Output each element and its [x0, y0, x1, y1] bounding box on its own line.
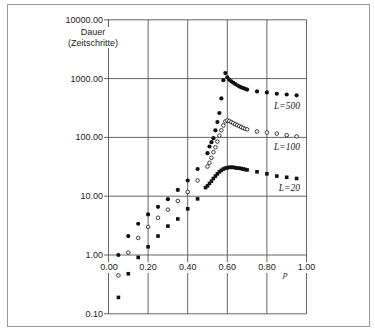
open-circle-marker: [156, 216, 160, 220]
x-tick-label: 1.00: [297, 262, 317, 273]
filled-circle-marker: [126, 234, 130, 238]
filled-circle-marker: [295, 93, 299, 97]
open-circle-marker: [218, 134, 222, 138]
series-label-l100: L=100: [274, 141, 300, 153]
y-tick-label: 10000.00: [65, 14, 103, 26]
filled-circle-marker: [116, 253, 120, 257]
filled-circle-marker: [136, 222, 140, 226]
filled-square-marker: [117, 296, 121, 300]
filled-square-marker: [245, 168, 249, 172]
y-tick-label: 1.00: [85, 249, 103, 261]
open-circle-marker: [176, 199, 180, 203]
filled-square-marker: [176, 217, 180, 221]
filled-square-marker: [295, 177, 299, 181]
filled-square-marker: [186, 207, 190, 211]
filled-square-marker: [285, 175, 289, 179]
open-circle-marker: [214, 145, 218, 149]
filled-circle-marker: [156, 205, 160, 209]
filled-square-marker: [127, 272, 131, 276]
filled-circle-marker: [215, 120, 219, 124]
x-axis-title: p: [283, 269, 288, 279]
filled-circle-marker: [207, 144, 211, 148]
filled-circle-marker: [213, 128, 217, 132]
filled-square-marker: [156, 234, 160, 238]
y-axis-title-line-2: (Zeitschritte): [67, 38, 119, 49]
x-tick-label: 0.00: [99, 262, 119, 273]
open-circle-marker: [285, 133, 289, 137]
plot-area: [0, 0, 375, 331]
filled-circle-marker: [221, 78, 225, 82]
open-circle-marker: [295, 135, 299, 139]
filled-circle-marker: [166, 197, 170, 201]
open-circle-marker: [222, 124, 226, 128]
filled-circle-marker: [223, 71, 227, 75]
x-tick-label: 0.60: [218, 262, 238, 273]
open-circle-marker: [210, 156, 214, 160]
open-circle-marker: [245, 128, 249, 132]
open-circle-marker: [220, 129, 224, 133]
filled-circle-marker: [217, 111, 221, 115]
x-tick-label: 0.20: [138, 262, 158, 273]
series-label-l20: L=20: [279, 182, 300, 194]
filled-circle-marker: [196, 167, 200, 171]
y-axis-title-line-1: Dauer: [67, 27, 119, 38]
filled-square-marker: [265, 172, 269, 176]
filled-circle-marker: [255, 89, 259, 93]
series-label-l500: L=500: [274, 100, 300, 112]
y-tick-label: 1000.00: [70, 73, 103, 85]
open-circle-marker: [136, 236, 140, 240]
y-tick-label: 0.10: [85, 308, 103, 320]
open-circle-marker: [186, 190, 190, 194]
open-circle-marker: [208, 161, 212, 165]
filled-square-marker: [275, 174, 279, 178]
open-circle-marker: [255, 130, 259, 134]
filled-square-marker: [255, 170, 259, 174]
filled-square-marker: [136, 256, 140, 260]
open-circle-marker: [127, 251, 131, 255]
filled-circle-marker: [285, 92, 289, 96]
open-circle-marker: [146, 225, 150, 229]
y-tick-label: 10.00: [80, 190, 103, 202]
filled-circle-marker: [186, 178, 190, 182]
y-tick-label: 100.00: [75, 131, 103, 143]
filled-circle-marker: [219, 96, 223, 100]
filled-circle-marker: [211, 136, 215, 140]
filled-circle-marker: [205, 151, 209, 155]
x-tick-label: 0.40: [178, 262, 198, 273]
y-axis-title: Dauer (Zeitschritte): [67, 27, 119, 48]
filled-circle-marker: [245, 88, 249, 92]
filled-square-marker: [196, 197, 200, 201]
open-circle-marker: [166, 208, 170, 212]
filled-circle-marker: [209, 140, 213, 144]
open-circle-marker: [212, 150, 216, 154]
open-circle-marker: [275, 132, 279, 136]
open-circle-marker: [196, 179, 200, 183]
filled-square-marker: [166, 224, 170, 228]
filled-circle-marker: [275, 92, 279, 96]
filled-square-marker: [146, 245, 150, 249]
open-circle-marker: [117, 274, 121, 278]
filled-circle-marker: [265, 90, 269, 94]
open-circle-marker: [206, 165, 210, 169]
open-circle-marker: [216, 140, 220, 144]
x-tick-label: 0.80: [257, 262, 277, 273]
filled-circle-marker: [146, 212, 150, 216]
filled-circle-marker: [176, 188, 180, 192]
open-circle-marker: [265, 131, 269, 135]
